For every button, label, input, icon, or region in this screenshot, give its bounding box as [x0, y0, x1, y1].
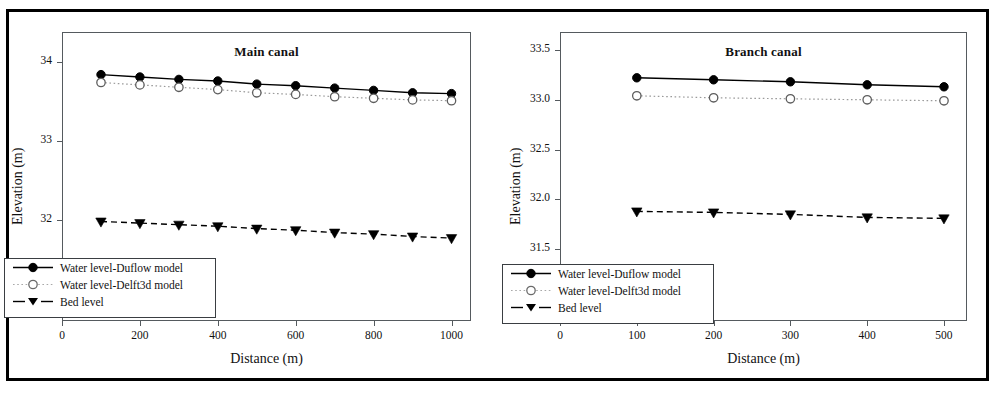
- data-point-filled-circle: [97, 70, 105, 78]
- data-point-open-circle: [709, 94, 717, 102]
- data-point-filled-triangle: [368, 231, 378, 240]
- data-point-open-circle: [447, 97, 455, 105]
- data-point-open-circle: [253, 89, 261, 97]
- data-point-open-circle: [786, 95, 794, 103]
- data-point-filled-triangle: [329, 229, 339, 238]
- legend-branch-canal: Water level-Duflow modelWater level-Delf…: [502, 264, 714, 324]
- data-point-open-circle: [136, 81, 144, 89]
- data-point-filled-circle: [136, 73, 144, 81]
- figure-canvas: Main canal Elevation (m) Distance (m) 31…: [0, 0, 999, 393]
- data-point-filled-triangle: [862, 214, 872, 223]
- legend-item: Bed level: [503, 299, 713, 316]
- data-point-filled-circle: [633, 74, 641, 82]
- data-point-open-circle: [940, 97, 948, 105]
- data-point-open-circle: [408, 96, 416, 104]
- data-point-filled-triangle: [213, 223, 223, 232]
- series-line: [101, 222, 452, 239]
- data-point-filled-circle: [253, 80, 261, 88]
- legend-item-label: Water level-Delft3d model: [558, 285, 681, 297]
- data-point-open-circle: [175, 83, 183, 91]
- data-point-filled-triangle: [446, 235, 456, 244]
- data-point-filled-circle: [369, 86, 377, 94]
- data-point-open-circle: [292, 90, 300, 98]
- chart-panel-branch-canal: Branch canal Elevation (m) Distance (m) …: [492, 0, 983, 372]
- data-point-filled-triangle: [291, 227, 301, 236]
- legend-main-canal: Water level-Duflow modelWater level-Delf…: [4, 258, 216, 318]
- legend-item: Water level-Delft3d model: [5, 276, 215, 293]
- data-point-open-circle: [633, 92, 641, 100]
- legend-marker-icon: [509, 265, 553, 282]
- data-point-filled-circle: [214, 77, 222, 85]
- data-point-open-circle: [369, 94, 377, 102]
- data-point-filled-triangle: [708, 209, 718, 218]
- data-point-filled-triangle: [785, 211, 795, 220]
- data-point-filled-triangle: [252, 225, 262, 234]
- legend-marker-icon: [11, 293, 55, 310]
- data-point-filled-triangle: [939, 215, 949, 224]
- data-point-open-circle: [97, 78, 105, 86]
- data-point-filled-triangle: [135, 220, 145, 229]
- data-point-filled-triangle: [174, 221, 184, 230]
- data-point-open-circle: [863, 96, 871, 104]
- legend-item: Bed level: [5, 293, 215, 310]
- series-line: [101, 75, 452, 94]
- legend-item: Water level-Delft3d model: [503, 282, 713, 299]
- data-point-filled-triangle: [96, 218, 106, 227]
- data-point-filled-circle: [709, 76, 717, 84]
- data-point-filled-circle: [175, 75, 183, 83]
- legend-marker-icon: [11, 259, 55, 276]
- series-bed-level: [632, 208, 950, 224]
- data-point-filled-triangle: [407, 233, 417, 242]
- legend-marker-icon: [509, 299, 553, 316]
- legend-item-label: Bed level: [558, 302, 602, 314]
- legend-marker-icon: [11, 276, 55, 293]
- data-point-filled-circle: [331, 84, 339, 92]
- series-water-level-duflow-model: [633, 74, 949, 91]
- data-point-filled-circle: [863, 81, 871, 89]
- series-water-level-duflow-model: [97, 70, 456, 97]
- legend-item: Water level-Duflow model: [503, 265, 713, 282]
- data-point-open-circle: [214, 85, 222, 93]
- data-point-filled-circle: [940, 83, 948, 91]
- data-point-filled-circle: [786, 78, 794, 86]
- series-water-level-delft3d-model: [633, 92, 949, 105]
- legend-marker-icon: [509, 282, 553, 299]
- legend-item-label: Water level-Duflow model: [558, 268, 681, 280]
- chart-panel-main-canal: Main canal Elevation (m) Distance (m) 31…: [0, 0, 490, 372]
- data-point-open-circle: [331, 93, 339, 101]
- legend-item: Water level-Duflow model: [5, 259, 215, 276]
- data-point-filled-circle: [292, 82, 300, 90]
- legend-item-label: Water level-Delft3d model: [60, 279, 183, 291]
- series-bed-level: [96, 218, 457, 244]
- legend-item-label: Water level-Duflow model: [60, 262, 183, 274]
- data-point-filled-triangle: [632, 208, 642, 217]
- legend-item-label: Bed level: [60, 296, 104, 308]
